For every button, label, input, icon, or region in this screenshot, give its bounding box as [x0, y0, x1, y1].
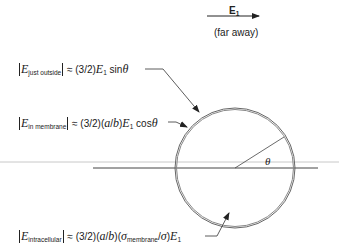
leader-in-membrane: [168, 122, 187, 127]
label-in-membrane: Ein membrane ≈ (3/2)(a/b)E1 cosθ: [18, 117, 158, 133]
leader-just-outside: [145, 69, 199, 112]
leader-intracellular: [205, 213, 229, 236]
angle-label: θ: [265, 155, 270, 167]
radius-line: [235, 137, 284, 168]
label-intracellular: Eintracellular ≈ (3/2)(a/b)(σmembrane/σ)…: [18, 230, 181, 246]
field-label: E1: [229, 5, 239, 17]
field-note: (far away): [214, 27, 258, 38]
label-just-outside: Ejust outside ≈ (3/2)E1 sinθ: [18, 63, 128, 79]
